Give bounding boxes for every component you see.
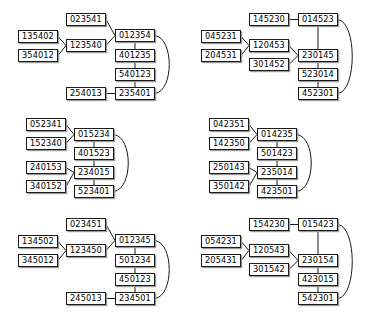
edge [155, 36, 169, 94]
permutation-label: 423015 [300, 274, 336, 285]
edge [155, 241, 169, 299]
permutation-node: 234015 [74, 166, 114, 179]
permutation-node: 542301 [298, 292, 338, 305]
permutation-node: 204531 [201, 49, 241, 62]
permutation-node: 012354 [115, 29, 155, 42]
edge [58, 242, 66, 251]
permutation-label: 401235 [117, 50, 153, 61]
permutation-node: 452301 [298, 87, 338, 100]
permutation-node: 235014 [257, 166, 297, 179]
permutation-label: 250143 [211, 162, 247, 173]
permutation-node: 205431 [201, 254, 241, 267]
permutation-label: 012354 [117, 30, 153, 41]
permutation-node: 123450 [66, 244, 106, 257]
permutation-label: 501234 [117, 255, 153, 266]
permutation-node: 254013 [66, 87, 106, 100]
edge [249, 135, 257, 144]
permutation-node: 042351 [209, 118, 249, 131]
permutation-label: 135402 [20, 31, 56, 42]
permutation-label: 523014 [300, 69, 336, 80]
edge [106, 36, 115, 46]
edge [58, 46, 66, 56]
permutation-node: 350142 [209, 180, 249, 193]
permutation-node: 023451 [66, 218, 106, 231]
permutation-label: 054231 [203, 236, 239, 247]
permutation-label: 152340 [28, 138, 64, 149]
permutation-label: 134502 [20, 236, 56, 247]
permutation-label: 401523 [76, 148, 112, 159]
edge [106, 20, 115, 36]
permutation-node: 401235 [115, 49, 155, 62]
permutation-label: 240153 [28, 162, 64, 173]
diagram-grid: 1354023540120235411235400123544012355401… [0, 0, 365, 314]
permutation-label: 230145 [300, 50, 336, 61]
permutation-label: 015234 [76, 129, 112, 140]
edge [241, 37, 249, 46]
permutation-label: 012345 [117, 235, 153, 246]
permutation-node: 301542 [249, 263, 289, 276]
permutation-label: 014523 [300, 14, 336, 25]
permutation-node: 234501 [115, 292, 155, 305]
edge [241, 242, 249, 251]
permutation-node: 230145 [298, 49, 338, 62]
permutation-node: 015234 [74, 128, 114, 141]
permutation-node: 250143 [209, 161, 249, 174]
permutation-label: 234501 [117, 293, 153, 304]
permutation-label: 123540 [68, 40, 104, 51]
edge [106, 241, 115, 251]
permutation-node: 014523 [298, 13, 338, 26]
edge [289, 46, 298, 56]
permutation-label: 052341 [28, 119, 64, 130]
permutation-node: 015423 [298, 218, 338, 231]
permutation-node: 301452 [249, 58, 289, 71]
edge [58, 37, 66, 46]
permutation-node: 523014 [298, 68, 338, 81]
permutation-label: 154230 [251, 219, 287, 230]
permutation-node: 345012 [18, 254, 58, 267]
permutation-label: 235014 [259, 167, 295, 178]
edge [289, 261, 298, 270]
permutation-label: 350142 [211, 181, 247, 192]
edge [66, 135, 74, 144]
permutation-label: 245013 [68, 293, 104, 304]
edge [66, 173, 74, 187]
edge [338, 225, 352, 299]
permutation-node: 135402 [18, 30, 58, 43]
edge [241, 46, 249, 56]
edge [114, 135, 128, 192]
edge [106, 225, 115, 241]
permutation-node: 540123 [115, 68, 155, 81]
permutation-label: 301542 [251, 264, 287, 275]
permutation-node: 152340 [26, 137, 66, 150]
permutation-node: 450123 [115, 273, 155, 286]
permutation-node: 240153 [26, 161, 66, 174]
permutation-label: 142350 [211, 138, 247, 149]
permutation-label: 023451 [68, 219, 104, 230]
permutation-label: 301452 [251, 59, 287, 70]
permutation-label: 120543 [251, 245, 287, 256]
edge [66, 168, 74, 173]
edge [58, 251, 66, 261]
permutation-node: 423015 [298, 273, 338, 286]
permutation-label: 023541 [68, 14, 104, 25]
permutation-node: 423501 [257, 185, 297, 198]
permutation-node: 120453 [249, 39, 289, 52]
permutation-node: 123540 [66, 39, 106, 52]
edge [289, 251, 298, 261]
permutation-label: 205431 [203, 255, 239, 266]
permutation-label: 145230 [251, 14, 287, 25]
permutation-node: 154230 [249, 218, 289, 231]
permutation-label: 254013 [68, 88, 104, 99]
permutation-node: 012345 [115, 234, 155, 247]
permutation-label: 235401 [117, 88, 153, 99]
edge [297, 135, 311, 192]
permutation-node: 501423 [257, 147, 297, 160]
edge [249, 125, 257, 135]
permutation-label: 015423 [300, 219, 336, 230]
permutation-label: 423501 [259, 186, 295, 197]
permutation-label: 042351 [211, 119, 247, 130]
permutation-label: 354012 [20, 50, 56, 61]
permutation-label: 120453 [251, 40, 287, 51]
permutation-label: 540123 [117, 69, 153, 80]
permutation-node: 134502 [18, 235, 58, 248]
